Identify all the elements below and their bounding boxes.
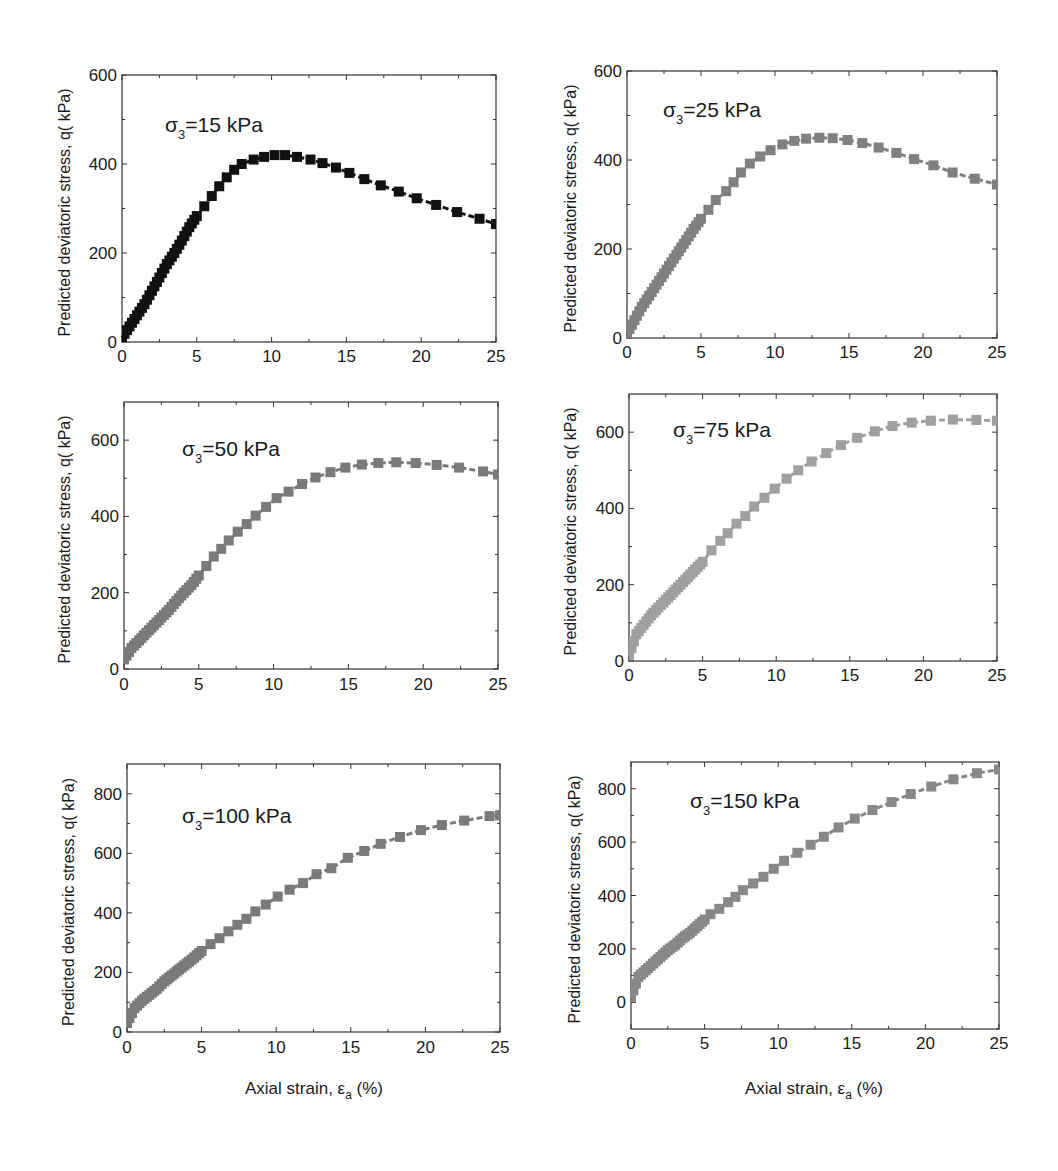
y-tick-label: 200 bbox=[596, 576, 624, 595]
y-tick-label: 800 bbox=[94, 785, 122, 804]
sigma-subscript: 3 bbox=[703, 803, 710, 818]
data-marker bbox=[124, 321, 134, 331]
data-marker bbox=[926, 416, 936, 426]
data-markers bbox=[622, 133, 1002, 339]
data-marker bbox=[331, 163, 341, 173]
data-marker bbox=[215, 933, 225, 943]
data-marker bbox=[411, 458, 421, 468]
data-marker bbox=[273, 892, 283, 902]
data-marker bbox=[850, 814, 860, 824]
x-axis-label-main: Axial strain, ε bbox=[745, 1079, 846, 1098]
x-tick-label: 20 bbox=[414, 675, 433, 694]
x-tick-label: 25 bbox=[988, 666, 1007, 685]
data-marker bbox=[454, 463, 464, 473]
subplot-1: 05101520250200400600Predicted deviatoric… bbox=[56, 66, 505, 366]
data-marker bbox=[814, 133, 824, 143]
data-marker bbox=[437, 820, 447, 830]
sigma-annotation: σ3=150 kPa bbox=[690, 789, 800, 818]
data-marker bbox=[184, 222, 194, 232]
data-marker bbox=[272, 493, 282, 503]
x-tick-label: 10 bbox=[769, 1034, 788, 1053]
data-marker bbox=[311, 869, 321, 879]
sigma-value: =15 kPa bbox=[185, 113, 263, 136]
x-tick-label: 0 bbox=[119, 675, 128, 694]
subplot-6: 05101520250200400600800Predicted deviato… bbox=[566, 762, 1008, 1053]
data-marker bbox=[777, 139, 787, 149]
data-marker bbox=[836, 440, 846, 450]
data-marker bbox=[241, 914, 251, 924]
x-axis-label-main: Axial strain, ε bbox=[245, 1079, 346, 1098]
y-tick-label: 400 bbox=[94, 904, 122, 923]
sigma-symbol: σ bbox=[182, 804, 195, 827]
data-marker bbox=[624, 650, 634, 660]
data-marker bbox=[789, 136, 799, 146]
x-tick-label: 25 bbox=[988, 343, 1007, 362]
data-marker bbox=[284, 487, 294, 497]
y-tick-label: 200 bbox=[89, 244, 117, 263]
data-marker bbox=[242, 519, 252, 529]
data-marker bbox=[948, 415, 958, 425]
sigma-annotation: σ3=75 kPa bbox=[673, 418, 771, 447]
data-marker bbox=[132, 310, 142, 320]
data-marker bbox=[298, 878, 308, 888]
data-marker bbox=[139, 299, 149, 309]
data-marker bbox=[412, 193, 422, 203]
y-tick-label: 400 bbox=[91, 507, 119, 526]
data-marker bbox=[723, 528, 733, 538]
data-marker bbox=[359, 846, 369, 856]
data-marker bbox=[317, 158, 327, 168]
y-tick-label: 400 bbox=[598, 887, 626, 906]
data-marker bbox=[681, 235, 691, 245]
data-marker bbox=[696, 214, 706, 224]
data-marker bbox=[867, 805, 877, 815]
data-marker bbox=[475, 214, 485, 224]
data-marker bbox=[887, 421, 897, 431]
y-tick-label: 400 bbox=[89, 155, 117, 174]
x-axis-label-left: Axial strain, εa (%) bbox=[245, 1079, 383, 1102]
data-marker bbox=[394, 187, 404, 197]
data-marker bbox=[806, 840, 816, 850]
data-markers bbox=[624, 415, 1002, 661]
x-tick-label: 10 bbox=[766, 343, 785, 362]
data-marker bbox=[821, 448, 831, 458]
x-tick-label: 0 bbox=[122, 1038, 131, 1057]
data-marker bbox=[706, 545, 716, 555]
data-marker bbox=[782, 474, 792, 484]
data-marker bbox=[852, 433, 862, 443]
x-tick-label: 0 bbox=[624, 666, 633, 685]
x-tick-label: 0 bbox=[117, 347, 126, 366]
sigma-value: =50 kPa bbox=[202, 437, 280, 460]
data-marker bbox=[926, 782, 936, 792]
sigma-annotation: σ3=50 kPa bbox=[182, 437, 280, 466]
x-tick-label: 25 bbox=[491, 1038, 510, 1057]
x-tick-label: 15 bbox=[339, 675, 358, 694]
data-marker bbox=[749, 502, 759, 512]
sigma-value: =75 kPa bbox=[693, 418, 771, 441]
data-marker bbox=[201, 561, 211, 571]
data-marker bbox=[224, 535, 234, 545]
x-tick-label: 10 bbox=[267, 1038, 286, 1057]
data-marker bbox=[223, 926, 233, 936]
sigma-subscript: 3 bbox=[195, 818, 202, 833]
data-marker bbox=[373, 458, 383, 468]
data-marker bbox=[147, 286, 157, 296]
data-marker bbox=[292, 152, 302, 162]
data-marker bbox=[261, 900, 271, 910]
data-line bbox=[124, 462, 498, 659]
data-marker bbox=[207, 191, 217, 201]
x-tick-label: 5 bbox=[192, 347, 201, 366]
data-marker bbox=[906, 789, 916, 799]
sigma-subscript: 3 bbox=[686, 432, 693, 447]
y-axis-label: Predicted deviatoric stress, q( kPa) bbox=[60, 778, 77, 1026]
data-marker bbox=[629, 315, 639, 325]
data-marker bbox=[631, 629, 641, 639]
data-marker bbox=[280, 150, 290, 160]
data-marker bbox=[493, 469, 503, 479]
data-marker bbox=[740, 511, 750, 521]
data-marker bbox=[766, 145, 776, 155]
data-marker bbox=[251, 511, 261, 521]
data-marker bbox=[622, 329, 632, 339]
data-marker bbox=[459, 816, 469, 826]
subplot-5: 05101520250200400600800Predicted deviato… bbox=[60, 764, 509, 1057]
x-tick-label: 20 bbox=[914, 666, 933, 685]
